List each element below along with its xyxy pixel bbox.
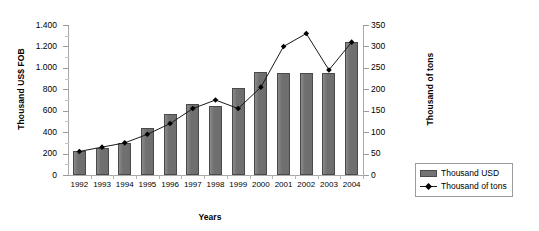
x-axis-tick [91, 175, 92, 179]
y-axis-right-tick [363, 25, 369, 26]
line-path [79, 34, 351, 152]
legend-item-thousand-usd: Thousand USD [420, 168, 507, 179]
x-axis-tick [181, 175, 182, 179]
x-axis-tick [272, 175, 273, 179]
x-axis-title: Years [55, 212, 365, 222]
x-axis-tick [363, 175, 364, 179]
y-axis-left-tick-label: 800 [0, 85, 57, 94]
legend-bar-swatch-icon [420, 170, 437, 177]
y-axis-right-tick [363, 154, 369, 155]
y-axis-left-tick-label: 1.200 [0, 42, 57, 51]
line-marker [190, 106, 196, 112]
x-axis-tick [340, 175, 341, 179]
y-axis-right-tick [363, 132, 369, 133]
line-path-svg [68, 25, 363, 175]
y-axis-right-title: Thousand of tons [425, 29, 435, 149]
y-axis-right-tick-label: 100 [371, 128, 411, 137]
x-axis-tick-label: 2004 [339, 180, 365, 190]
x-axis-tick [227, 175, 228, 179]
line-marker [99, 144, 105, 150]
x-axis-tick [204, 175, 205, 179]
y-axis-left-tick-label: 400 [0, 128, 57, 137]
y-axis-right-tick-label: 150 [371, 106, 411, 115]
legend-label-thousand-usd: Thousand USD [441, 169, 499, 178]
x-axis-tick [159, 175, 160, 179]
y-axis-left-tick-label: 1.000 [0, 63, 57, 72]
x-axis-tick [113, 175, 114, 179]
line-series-thousand-of-tons [68, 25, 363, 175]
y-axis-left-tick [63, 175, 69, 176]
legend-item-thousand-of-tons: Thousand of tons [420, 181, 507, 192]
y-axis-right-tick [363, 46, 369, 47]
y-axis-left-tick-label: 0 [0, 171, 57, 180]
legend-label-thousand-of-tons: Thousand of tons [441, 182, 507, 191]
y-axis-right-tick-label: 0 [371, 171, 411, 180]
y-axis-right-tick-label: 50 [371, 149, 411, 158]
y-axis-left-tick-label: 600 [0, 106, 57, 115]
y-axis-right-tick-label: 300 [371, 42, 411, 51]
y-axis-right-tick [363, 111, 369, 112]
y-axis-left-tick-label: 200 [0, 149, 57, 158]
x-axis-tick [295, 175, 296, 179]
legend-line-marker-icon [420, 183, 437, 190]
y-axis-right-tick-label: 200 [371, 85, 411, 94]
chart-legend: Thousand USD Thousand of tons [415, 163, 513, 197]
y-axis-left-tick-label: 1.400 [0, 21, 57, 30]
line-marker [213, 97, 219, 103]
x-axis-tick [136, 175, 137, 179]
chart-container: 02004006008001.0001.2001.400 05010015020… [0, 0, 539, 231]
line-marker [77, 149, 83, 155]
line-marker [167, 121, 173, 127]
y-axis-right-tick [363, 68, 369, 69]
line-marker [281, 44, 287, 50]
y-axis-right-tick-label: 350 [371, 21, 411, 30]
line-marker [303, 31, 309, 37]
x-axis-labels: 1992199319941995199619971998199920002001… [68, 180, 363, 194]
y-axis-right-tick [363, 89, 369, 90]
x-axis-tick [318, 175, 319, 179]
line-marker [145, 131, 151, 137]
y-axis-left-title: Thousand US$ FOB [16, 29, 26, 149]
x-axis-tick [250, 175, 251, 179]
y-axis-right-tick-label: 250 [371, 63, 411, 72]
line-marker [122, 140, 128, 146]
